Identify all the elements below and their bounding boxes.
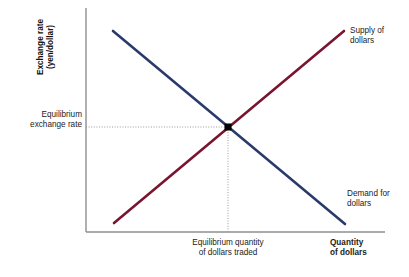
supply-label-line-1: Supply of <box>350 26 408 36</box>
exchange-rate-diagram: Exchange rate (yen/dollar) Equilibrium e… <box>0 0 409 277</box>
supply-label-line-2: dollars <box>350 36 408 46</box>
equilibrium-rate-line-2: exchange rate <box>14 120 82 130</box>
equilibrium-quantity-label: Equilibrium quantity of dollars traded <box>166 238 290 259</box>
equilibrium-exchange-rate-label: Equilibrium exchange rate <box>14 110 82 131</box>
equilibrium-qty-line-2: of dollars traded <box>166 248 290 258</box>
demand-label-line-2: dollars <box>347 199 407 209</box>
equilibrium-point-marker <box>225 124 232 131</box>
demand-label-line-1: Demand for <box>347 189 407 199</box>
equilibrium-qty-line-1: Equilibrium quantity <box>166 238 290 248</box>
y-axis-title-line-2: (yen/dollar) <box>46 12 56 82</box>
demand-curve-label: Demand for dollars <box>347 189 407 210</box>
y-axis-title-line-1: Exchange rate <box>36 12 46 82</box>
equilibrium-rate-line-1: Equilibrium <box>14 110 82 120</box>
supply-curve-label: Supply of dollars <box>350 26 408 47</box>
y-axis-title: Exchange rate (yen/dollar) <box>36 12 72 82</box>
x-axis-title-line-2: of dollars <box>330 248 406 258</box>
x-axis-title: Quantity of dollars <box>330 238 406 259</box>
x-axis-title-line-1: Quantity <box>330 238 406 248</box>
